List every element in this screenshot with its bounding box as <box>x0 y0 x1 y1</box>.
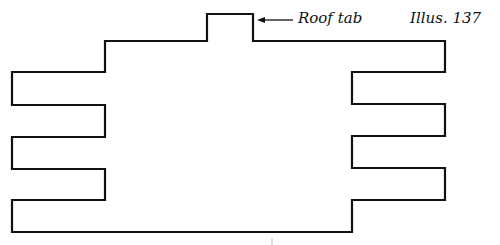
pattern-outline <box>12 14 445 232</box>
arrow-icon <box>257 17 293 23</box>
pattern-diagram <box>0 0 500 245</box>
illustration-number: Illus. 137 <box>410 9 481 27</box>
roof-tab-label: Roof tab <box>298 9 362 27</box>
